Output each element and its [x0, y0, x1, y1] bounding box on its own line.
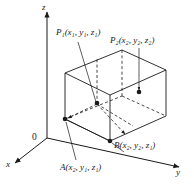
box-edge-top-right-back: [122, 50, 166, 70]
leader-a: [66, 122, 76, 160]
point-marker-a: [63, 117, 68, 122]
point-label-p2: P₂(x₂, y₂, z₂): [110, 36, 155, 45]
segment-a-to-b-base: [65, 119, 110, 141]
x-axis: [15, 138, 47, 163]
point-marker-p2: [137, 90, 142, 95]
origin-label: 0: [32, 133, 37, 143]
segment-p1-to-bottom-right: [97, 104, 133, 126]
point-label-a: A(x₂, y₁, z₁): [60, 163, 101, 172]
figure-canvas: z x y 0 P₁(x₁, y₁, z₁) P₂(x₂, y₂, z₂) A(…: [0, 0, 194, 190]
leader-p1: [78, 42, 96, 102]
point-marker-p1: [95, 101, 100, 106]
box-hidden-edges: [65, 50, 166, 119]
segment-p1-to-a: [68, 104, 97, 118]
diagonal-construction-lines: [65, 58, 133, 141]
z-axis-label: z: [42, 3, 46, 12]
box-edge-top-front-right: [65, 73, 110, 95]
box-visible-edges: [65, 50, 166, 141]
x-axis-label: x: [6, 160, 10, 169]
box-edge-bottom-back-right-hidden: [122, 96, 166, 116]
point-label-b: B(x₂, y₂, z₁): [114, 141, 155, 150]
point-markers: [63, 90, 142, 144]
y-axis-label: y: [176, 168, 180, 177]
box-edge-bottom-front-right: [110, 116, 166, 141]
point-label-p1: P₁(x₁, y₁, z₁): [56, 28, 101, 37]
box-edge-top-front-left: [65, 50, 122, 73]
point-marker-b: [108, 139, 113, 144]
